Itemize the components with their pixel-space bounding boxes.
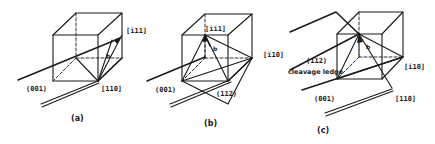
panel-c: [ī10] (112) cleavage ledge (001) [ī10] […: [263, 12, 425, 135]
double-line: [326, 91, 393, 116]
caption-c: (c): [317, 126, 329, 135]
label-burgers: b: [366, 43, 371, 50]
label-burgers: b: [213, 45, 218, 52]
label-direction-bottom: [110]: [101, 85, 122, 93]
double-line: [41, 81, 98, 104]
label-direction-top: [ī11]: [126, 27, 147, 35]
label-burgers: b: [106, 52, 111, 59]
double-line: [42, 83, 99, 107]
crystal-diagram: [ī11] [110] (001) b (a) [īī1]: [0, 0, 435, 144]
panel-b: [īī1] (112) (001) b (b): [147, 14, 252, 128]
caption-a: (a): [71, 114, 84, 123]
label-direction-right: [ī10]: [404, 63, 425, 71]
label-direction-left: [ī10]: [263, 51, 284, 59]
label-plane-upper: (112): [306, 57, 327, 65]
caption-b: (b): [204, 119, 217, 128]
label-plane: (001): [26, 85, 47, 93]
label-plane-bottom: (112): [216, 90, 237, 98]
cube-top-face: [53, 13, 122, 35]
label-direction-top: [īī1]: [205, 25, 226, 33]
plane-001-line: [18, 39, 118, 80]
cube-right-face: [382, 12, 403, 79]
label-plane: (001): [314, 95, 335, 103]
panel-a: [ī11] [110] (001) b (a): [18, 13, 147, 123]
label-cleavage-ledge: cleavage ledge: [288, 68, 344, 76]
label-plane: (001): [155, 86, 176, 94]
internal-edge: [76, 58, 98, 81]
label-direction-bottom: [110]: [395, 95, 416, 103]
plane-001-line: [147, 57, 205, 81]
